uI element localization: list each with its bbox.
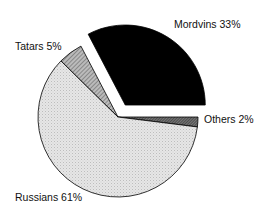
- label-tatars: Tatars 5%: [15, 40, 62, 52]
- pie-chart: [0, 0, 264, 213]
- label-russians: Russians 61%: [15, 191, 82, 203]
- label-mordvins: Mordvins 33%: [174, 18, 241, 30]
- label-others: Others 2%: [204, 113, 254, 125]
